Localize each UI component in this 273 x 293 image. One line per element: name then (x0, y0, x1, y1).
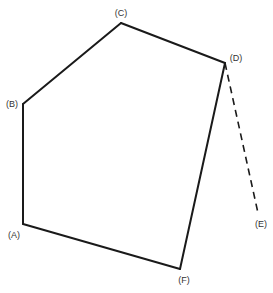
vertex-label-f: (F) (178, 275, 190, 285)
edges-group (23, 23, 258, 269)
edge-d-f (180, 63, 225, 269)
vertex-label-c: (C) (115, 8, 128, 18)
vertex-label-b: (B) (6, 99, 18, 109)
edge-b-c (23, 23, 121, 104)
polygon-diagram: (A) (B) (C) (D) (E) (F) (0, 0, 273, 293)
dashed-edge-d-e (225, 63, 258, 213)
edge-f-a (23, 224, 180, 269)
vertex-label-a: (A) (8, 230, 20, 240)
vertex-label-e: (E) (255, 219, 267, 229)
vertex-label-d: (D) (230, 53, 243, 63)
edge-c-d (121, 23, 225, 63)
labels-group: (A) (B) (C) (D) (E) (F) (6, 8, 267, 285)
